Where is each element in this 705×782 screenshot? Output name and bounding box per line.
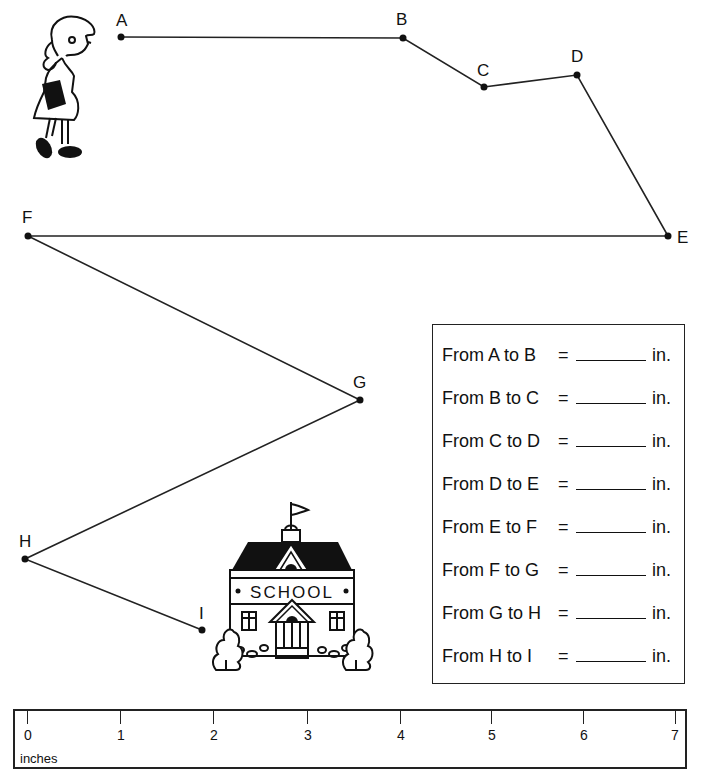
answer-label: From C to D [442, 432, 558, 450]
equals-sign: = [558, 389, 576, 407]
answer-label: From E to F [442, 518, 558, 536]
ruler-number: 0 [24, 728, 32, 742]
answer-label: From G to H [442, 604, 558, 622]
ruler-number: 7 [671, 728, 679, 742]
ruler-number: 2 [210, 728, 218, 742]
answer-blank[interactable] [576, 473, 646, 490]
equals-sign: = [558, 432, 576, 450]
ruler-tick [213, 711, 214, 724]
point-label-c: C [477, 62, 489, 79]
ruler-number: 1 [117, 728, 125, 742]
answer-row-e-f: From E to F = in. [442, 516, 671, 536]
ruler-unit-label: inches [20, 752, 58, 765]
ruler-tick [307, 711, 308, 724]
point-g [357, 397, 364, 404]
unit-label: in. [652, 604, 671, 622]
point-label-e: E [677, 229, 688, 246]
ruler-tick [491, 711, 492, 724]
answer-box: From A to B = in. From B to C = in. From… [432, 324, 685, 684]
answer-label: From D to E [442, 475, 558, 493]
ruler-number: 4 [397, 728, 405, 742]
answer-row-d-e: From D to E = in. [442, 473, 671, 493]
answer-row-b-c: From B to C = in. [442, 387, 671, 407]
answer-label: From H to I [442, 647, 558, 665]
point-label-h: H [19, 533, 31, 550]
inch-ruler: 0 1 2 3 4 5 6 7 inches [13, 709, 687, 769]
point-d [574, 72, 581, 79]
ruler-tick [675, 711, 676, 724]
equals-sign: = [558, 604, 576, 622]
ruler-tick [27, 711, 28, 724]
answer-blank[interactable] [576, 430, 646, 447]
unit-label: in. [652, 346, 671, 364]
answer-blank[interactable] [576, 645, 646, 662]
point-i [199, 627, 206, 634]
ruler-number: 6 [580, 728, 588, 742]
answer-row-c-d: From C to D = in. [442, 430, 671, 450]
unit-label: in. [652, 561, 671, 579]
unit-label: in. [652, 432, 671, 450]
point-h [22, 556, 29, 563]
answer-row-h-i: From H to I = in. [442, 645, 671, 665]
ruler-number: 3 [304, 728, 312, 742]
unit-label: in. [652, 647, 671, 665]
school-illustration: SCHOOL [210, 500, 380, 680]
equals-sign: = [558, 647, 576, 665]
answer-label: From B to C [442, 389, 558, 407]
point-a [118, 34, 125, 41]
answer-blank[interactable] [576, 387, 646, 404]
point-b [400, 35, 407, 42]
unit-label: in. [652, 518, 671, 536]
ruler-number: 5 [488, 728, 496, 742]
answer-row-g-h: From G to H = in. [442, 602, 671, 622]
equals-sign: = [558, 346, 576, 364]
point-label-g: G [353, 374, 366, 391]
equals-sign: = [558, 475, 576, 493]
point-label-i: I [199, 605, 204, 622]
girl-illustration [22, 12, 102, 162]
point-label-b: B [396, 11, 407, 28]
point-label-d: D [571, 48, 583, 65]
point-label-f: F [22, 209, 32, 226]
answer-row-a-b: From A to B = in. [442, 344, 671, 364]
ruler-tick [583, 711, 584, 724]
answer-row-f-g: From F to G = in. [442, 559, 671, 579]
equals-sign: = [558, 561, 576, 579]
point-e [665, 233, 672, 240]
answer-label: From F to G [442, 561, 558, 579]
answer-blank[interactable] [576, 344, 646, 361]
equals-sign: = [558, 518, 576, 536]
unit-label: in. [652, 389, 671, 407]
answer-label: From A to B [442, 346, 558, 364]
ruler-tick [120, 711, 121, 724]
point-label-a: A [116, 12, 127, 29]
answer-blank[interactable] [576, 559, 646, 576]
ruler-tick [400, 711, 401, 724]
point-c [481, 84, 488, 91]
unit-label: in. [652, 475, 671, 493]
answer-blank[interactable] [576, 602, 646, 619]
point-f [25, 233, 32, 240]
answer-blank[interactable] [576, 516, 646, 533]
